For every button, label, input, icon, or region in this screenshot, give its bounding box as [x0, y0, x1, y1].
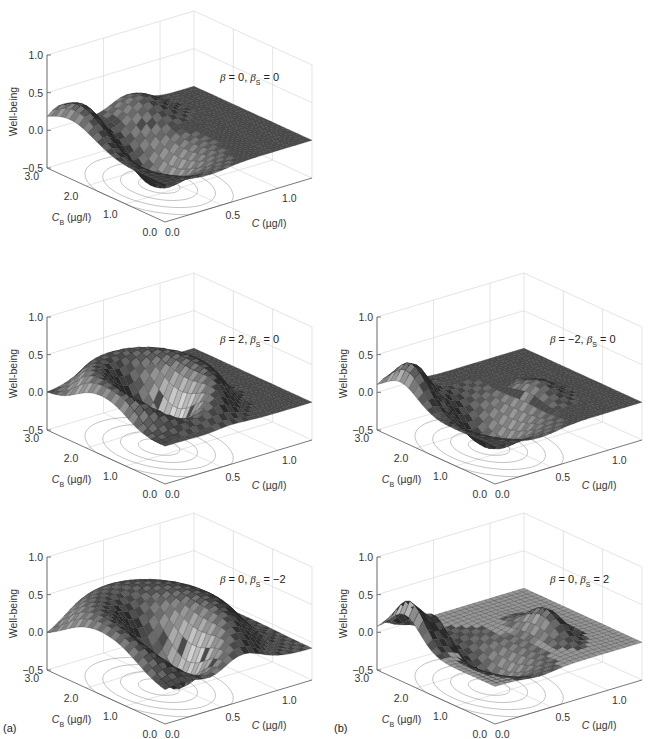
surface-plot-beta2-betas0: 1.00.50.0−0.50.01.02.03.00.00.51.0Well-b…	[0, 250, 324, 490]
z-tick-label: 0.5	[358, 589, 373, 601]
z-axis-label: Well-being	[7, 349, 19, 399]
surface-plot-beta0-betas0: 1.00.50.0−0.50.01.02.03.00.00.51.0Well-b…	[0, 0, 324, 240]
c-axis-label: C (µg/l)	[252, 217, 287, 229]
surface-mesh	[47, 347, 312, 446]
c-tick-label: 0.5	[556, 711, 571, 723]
cb-tick-label: 1.0	[103, 208, 118, 220]
z-axis-label: Well-being	[7, 87, 19, 137]
z-tick-label: 1.0	[28, 49, 43, 61]
z-tick-label: 0.5	[28, 349, 43, 361]
cb-axis-label: CB (µg/l)	[382, 713, 421, 728]
z-tick-label: 1.0	[358, 311, 373, 323]
cb-tick-label: 3.0	[24, 170, 39, 182]
z-tick-label: 1.0	[28, 551, 43, 563]
cb-tick-label: 0.0	[142, 226, 157, 238]
c-tick-label: 1.0	[282, 192, 297, 204]
cb-tick-label: 3.0	[24, 432, 39, 444]
cb-axis-label: CB (µg/l)	[382, 473, 421, 488]
cb-axis-label: CB (µg/l)	[52, 211, 91, 226]
cb-tick-label: 1.0	[103, 470, 118, 482]
surface-mesh	[377, 348, 642, 448]
c-tick-label: 0.5	[226, 471, 241, 483]
parameter-annotation: β = 0, βS = −2	[219, 573, 286, 588]
c-axis-label: C (µg/l)	[582, 719, 617, 731]
c-tick-label: 1.0	[282, 694, 297, 706]
subfigure-label-a: (a)	[3, 722, 16, 734]
cb-tick-label: 2.0	[64, 692, 79, 704]
c-tick-label: 1.0	[612, 454, 627, 466]
z-tick-label: 1.0	[28, 311, 43, 323]
cb-tick-label: 3.0	[24, 672, 39, 684]
z-tick-label: 0.0	[28, 386, 43, 398]
cb-tick-label: 0.0	[472, 728, 487, 739]
z-tick-label: 0.5	[28, 87, 43, 99]
z-axis-label: Well-being	[337, 589, 349, 639]
c-tick-label: 1.0	[282, 454, 297, 466]
z-tick-label: 0.0	[358, 386, 373, 398]
z-axis-label: Well-being	[337, 349, 349, 399]
cb-tick-label: 2.0	[64, 190, 79, 202]
c-axis-label: C (µg/l)	[252, 719, 287, 731]
z-tick-label: 0.0	[28, 124, 43, 136]
z-tick-label: 0.0	[28, 626, 43, 638]
cb-tick-label: 2.0	[394, 692, 409, 704]
z-tick-label: 0.0	[358, 626, 373, 638]
c-axis-label: C (µg/l)	[582, 479, 617, 491]
z-tick-label: 1.0	[358, 551, 373, 563]
parameter-annotation: β = −2, βS = 0	[549, 333, 616, 348]
c-tick-label: 1.0	[612, 694, 627, 706]
cb-axis-label: CB (µg/l)	[52, 473, 91, 488]
surface-plot-beta-neg2-betas0: 1.00.50.0−0.50.01.02.03.00.00.51.0Well-b…	[330, 250, 654, 490]
cb-axis-label: CB (µg/l)	[52, 713, 91, 728]
z-tick-label: 0.5	[28, 589, 43, 601]
surface-mesh	[47, 579, 312, 689]
cb-tick-label: 3.0	[354, 672, 369, 684]
cb-tick-label: 1.0	[433, 710, 448, 722]
cb-tick-label: 3.0	[354, 432, 369, 444]
surface-plot-beta0-betas2: 1.00.50.0−0.50.01.02.03.00.00.51.0Well-b…	[330, 490, 654, 730]
surface-plot-beta0-betas-neg2: 1.00.50.0−0.50.01.02.03.00.00.51.0Well-b…	[0, 490, 324, 730]
surface-mesh	[47, 86, 312, 188]
c-tick-label: 0.0	[165, 226, 180, 238]
cb-tick-label: 2.0	[394, 452, 409, 464]
z-tick-label: 0.5	[358, 349, 373, 361]
z-axis-label: Well-being	[7, 589, 19, 639]
c-tick-label: 0.0	[495, 728, 510, 739]
c-tick-label: 0.5	[226, 711, 241, 723]
c-tick-label: 0.5	[556, 471, 571, 483]
cb-tick-label: 1.0	[433, 470, 448, 482]
cb-tick-label: 2.0	[64, 452, 79, 464]
c-tick-label: 0.5	[226, 209, 241, 221]
subfigure-label-b: (b)	[334, 722, 347, 734]
cb-tick-label: 1.0	[103, 710, 118, 722]
cb-tick-label: 0.0	[142, 728, 157, 739]
c-tick-label: 0.0	[165, 728, 180, 739]
surface-mesh	[377, 588, 642, 686]
c-axis-label: C (µg/l)	[252, 479, 287, 491]
